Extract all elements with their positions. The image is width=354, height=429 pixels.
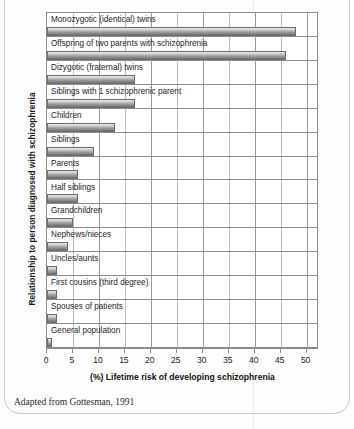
bar-row: Nephews/nieces bbox=[47, 228, 317, 252]
bar-category-label: Grandchildren bbox=[51, 205, 102, 216]
bar bbox=[47, 218, 73, 227]
bar-category-label: Half siblings bbox=[51, 182, 95, 193]
figure-caption: Adapted from Gottesman, 1991 bbox=[14, 397, 134, 407]
bar-row: General population bbox=[47, 324, 317, 348]
x-tick-15 bbox=[124, 349, 125, 353]
x-tick-label-40: 40 bbox=[242, 355, 266, 365]
clipped-header-text bbox=[20, 0, 320, 9]
bar-category-label: Spouses of patients bbox=[51, 301, 123, 312]
bar-row: Children bbox=[47, 109, 317, 133]
bar bbox=[47, 147, 94, 156]
x-tick-25 bbox=[176, 349, 177, 353]
bar-category-label: Parents bbox=[51, 158, 79, 169]
bar-category-label: Children bbox=[51, 110, 82, 121]
x-tick-0 bbox=[46, 349, 47, 353]
bar-row: First cousins (third degree) bbox=[47, 276, 317, 300]
bar-category-label: Siblings with 1 schizophrenic parent bbox=[51, 86, 181, 97]
x-tick-label-0: 0 bbox=[34, 355, 58, 365]
x-tick-35 bbox=[228, 349, 229, 353]
bar bbox=[47, 338, 52, 347]
bar-category-label: Offspring of two parents with schizophre… bbox=[51, 38, 207, 49]
bar-category-label: General population bbox=[51, 325, 120, 336]
x-tick-20 bbox=[150, 349, 151, 353]
bar-row: Parents bbox=[47, 157, 317, 181]
bar bbox=[47, 290, 57, 299]
bar bbox=[47, 75, 135, 84]
x-tick-label-15: 15 bbox=[112, 355, 136, 365]
y-axis-title: Relationship to person diagnosed with sc… bbox=[27, 84, 37, 314]
bar-row: Uncles/aunts bbox=[47, 252, 317, 276]
bar-row: Offspring of two parents with schizophre… bbox=[47, 37, 317, 61]
bar-category-label: Dizygotic (fraternal) twins bbox=[51, 62, 143, 73]
x-tick-45 bbox=[280, 349, 281, 353]
x-axis-tick-labels: 05101520253035404550 bbox=[0, 355, 354, 367]
plot-area: Monozygotic (identical) twinsOffspring o… bbox=[46, 12, 318, 349]
x-tick-label-50: 50 bbox=[294, 355, 318, 365]
bar bbox=[47, 194, 78, 203]
bar-rows: Monozygotic (identical) twinsOffspring o… bbox=[47, 13, 317, 348]
x-tick-label-30: 30 bbox=[190, 355, 214, 365]
x-tick-label-5: 5 bbox=[60, 355, 84, 365]
bar-category-label: Nephews/nieces bbox=[51, 229, 111, 240]
bar bbox=[47, 242, 68, 251]
bar bbox=[47, 170, 78, 179]
bar-row: Monozygotic (identical) twins bbox=[47, 13, 317, 37]
bar bbox=[47, 51, 286, 60]
bar-row: Siblings with 1 schizophrenic parent bbox=[47, 85, 317, 109]
x-tick-50 bbox=[306, 349, 307, 353]
bar-category-label: Uncles/aunts bbox=[51, 253, 98, 264]
bar-row: Siblings bbox=[47, 133, 317, 157]
x-tick-label-10: 10 bbox=[86, 355, 110, 365]
bar bbox=[47, 123, 115, 132]
x-tick-5 bbox=[72, 349, 73, 353]
bar-category-label: First cousins (third degree) bbox=[51, 277, 148, 288]
bar bbox=[47, 314, 57, 323]
x-tick-40 bbox=[254, 349, 255, 353]
bar bbox=[47, 99, 135, 108]
x-tick-label-25: 25 bbox=[164, 355, 188, 365]
x-tick-label-45: 45 bbox=[268, 355, 292, 365]
bar-row: Grandchildren bbox=[47, 204, 317, 228]
x-tick-30 bbox=[202, 349, 203, 353]
x-tick-label-20: 20 bbox=[138, 355, 162, 365]
bar-row: Half siblings bbox=[47, 181, 317, 205]
x-tick-10 bbox=[98, 349, 99, 353]
bar bbox=[47, 266, 57, 275]
x-axis-title: (%) Lifetime risk of developing schizoph… bbox=[40, 372, 325, 382]
bar-row: Dizygotic (fraternal) twins bbox=[47, 61, 317, 85]
bar-category-label: Monozygotic (identical) twins bbox=[51, 14, 156, 25]
row-separator bbox=[47, 347, 317, 348]
bar-row: Spouses of patients bbox=[47, 300, 317, 324]
figure-card: Relationship to person diagnosed with sc… bbox=[0, 0, 354, 429]
x-tick-label-35: 35 bbox=[216, 355, 240, 365]
bar bbox=[47, 27, 296, 36]
bar-category-label: Siblings bbox=[51, 134, 80, 145]
